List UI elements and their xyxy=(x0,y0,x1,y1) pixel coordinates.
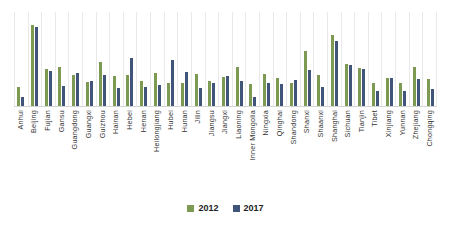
bar-2017[interactable] xyxy=(199,88,202,106)
bar-2012[interactable] xyxy=(222,77,225,106)
bar-2017[interactable] xyxy=(117,88,120,106)
bar-2017[interactable] xyxy=(267,83,270,106)
bar-group[interactable] xyxy=(355,12,369,106)
bar-group[interactable] xyxy=(410,12,424,106)
bar-2017[interactable] xyxy=(308,70,311,106)
bar-group[interactable] xyxy=(41,12,55,106)
bar-2017[interactable] xyxy=(240,81,243,106)
bar-group[interactable] xyxy=(382,12,396,106)
bar-group[interactable] xyxy=(178,12,192,106)
bar-2012[interactable] xyxy=(113,76,116,106)
bar-2017[interactable] xyxy=(294,80,297,106)
bar-group[interactable] xyxy=(423,12,437,106)
bar-2017[interactable] xyxy=(226,76,229,106)
bar-2012[interactable] xyxy=(276,78,279,106)
bar-group[interactable] xyxy=(260,12,274,106)
bar-group[interactable] xyxy=(232,12,246,106)
bar-group[interactable] xyxy=(164,12,178,106)
bar-2012[interactable] xyxy=(86,82,89,106)
x-tick-label: Hebei xyxy=(123,108,137,190)
bar-2012[interactable] xyxy=(263,74,266,106)
bar-2017[interactable] xyxy=(103,75,106,106)
bar-2012[interactable] xyxy=(399,83,402,106)
bar-group[interactable] xyxy=(369,12,383,106)
bar-2012[interactable] xyxy=(331,35,334,106)
bar-group[interactable] xyxy=(246,12,260,106)
bar-2012[interactable] xyxy=(167,83,170,107)
bar-2017[interactable] xyxy=(280,84,283,106)
bar-group[interactable] xyxy=(328,12,342,106)
bar-group[interactable] xyxy=(96,12,110,106)
x-tick-label-text: Heilongjiang xyxy=(154,110,161,152)
bar-2017[interactable] xyxy=(321,87,324,106)
bar-group[interactable] xyxy=(28,12,42,106)
bar-2017[interactable] xyxy=(49,71,52,106)
legend-item-2012[interactable]: 2012 xyxy=(187,204,218,213)
bar-2012[interactable] xyxy=(427,79,430,106)
bar-2012[interactable] xyxy=(249,84,252,106)
bar-2017[interactable] xyxy=(62,86,65,106)
bar-2012[interactable] xyxy=(386,78,389,106)
bar-2012[interactable] xyxy=(358,68,361,106)
bar-group[interactable] xyxy=(314,12,328,106)
bar-2012[interactable] xyxy=(345,64,348,106)
bar-2012[interactable] xyxy=(304,51,307,106)
bar-group[interactable] xyxy=(82,12,96,106)
bar-group[interactable] xyxy=(205,12,219,106)
bar-2012[interactable] xyxy=(45,69,48,106)
bar-group[interactable] xyxy=(69,12,83,106)
bar-group[interactable] xyxy=(396,12,410,106)
bar-2017[interactable] xyxy=(158,85,161,106)
bar-group[interactable] xyxy=(191,12,205,106)
bar-2012[interactable] xyxy=(17,87,20,106)
bar-2017[interactable] xyxy=(253,97,256,106)
bar-2017[interactable] xyxy=(21,97,24,106)
bar-2012[interactable] xyxy=(236,67,239,106)
bar-2012[interactable] xyxy=(58,67,61,106)
bar-group[interactable] xyxy=(137,12,151,106)
bar-2017[interactable] xyxy=(35,27,38,106)
bar-group[interactable] xyxy=(300,12,314,106)
bar-group[interactable] xyxy=(109,12,123,106)
bar-2012[interactable] xyxy=(31,25,34,106)
bar-2017[interactable] xyxy=(130,58,133,106)
bar-group[interactable] xyxy=(55,12,69,106)
bar-group[interactable] xyxy=(273,12,287,106)
bar-2017[interactable] xyxy=(390,78,393,106)
bar-2012[interactable] xyxy=(154,73,157,106)
bar-group[interactable] xyxy=(14,12,28,106)
bar-2012[interactable] xyxy=(208,81,211,106)
bar-2012[interactable] xyxy=(72,75,75,106)
legend-item-2017[interactable]: 2017 xyxy=(233,204,264,213)
bar-group[interactable] xyxy=(150,12,164,106)
bar-group[interactable] xyxy=(341,12,355,106)
bar-2017[interactable] xyxy=(335,41,338,106)
bar-2017[interactable] xyxy=(362,69,365,106)
x-tick-label: Shaanxi xyxy=(314,108,328,190)
bar-group[interactable] xyxy=(123,12,137,106)
bar-2012[interactable] xyxy=(181,83,184,106)
bar-2012[interactable] xyxy=(290,83,293,107)
bar-2012[interactable] xyxy=(140,81,143,106)
bar-2017[interactable] xyxy=(376,91,379,106)
bar-2017[interactable] xyxy=(185,72,188,106)
bar-2012[interactable] xyxy=(372,83,375,106)
bar-group[interactable] xyxy=(219,12,233,106)
bar-2012[interactable] xyxy=(195,74,198,106)
bar-2017[interactable] xyxy=(417,79,420,106)
x-tick-label-text: Chongqing xyxy=(426,110,433,147)
x-tick-label: Anhui xyxy=(14,108,28,190)
bar-2017[interactable] xyxy=(144,87,147,106)
bar-2017[interactable] xyxy=(171,60,174,106)
bar-2012[interactable] xyxy=(126,75,129,106)
bar-2017[interactable] xyxy=(349,65,352,106)
bar-2017[interactable] xyxy=(76,73,79,106)
bar-2012[interactable] xyxy=(413,67,416,106)
bar-2017[interactable] xyxy=(403,91,406,106)
bar-2012[interactable] xyxy=(317,75,320,106)
bar-2017[interactable] xyxy=(212,83,215,107)
bar-group[interactable] xyxy=(287,12,301,106)
bar-2017[interactable] xyxy=(431,89,434,106)
bar-2017[interactable] xyxy=(90,81,93,106)
bar-2012[interactable] xyxy=(99,62,102,106)
